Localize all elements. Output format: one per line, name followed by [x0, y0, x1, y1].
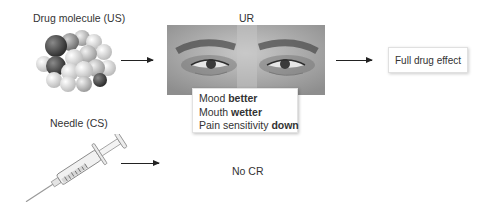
effect-pain-prefix: Pain sensitivity [199, 119, 271, 131]
face-eyes-image [167, 25, 325, 95]
no-cr-label: No CR [232, 165, 264, 177]
effect-mood-emphasis: better [228, 92, 257, 104]
syringe-icon [18, 134, 138, 202]
effect-mood-prefix: Mood [199, 92, 228, 104]
full-drug-effect-box: Full drug effect [388, 47, 468, 73]
effect-mouth-emphasis: wetter [231, 106, 262, 118]
ur-label: UR [239, 12, 254, 24]
effect-mood: Mood better [199, 92, 297, 106]
cs-label: Needle (CS) [50, 117, 108, 129]
us-label: Drug molecule (US) [33, 12, 125, 24]
effect-pain-emphasis: down [271, 119, 298, 131]
arrow-ur-to-effect [336, 60, 372, 61]
effect-mouth: Mouth wetter [199, 106, 297, 120]
effect-pain: Pain sensitivity down [199, 119, 297, 133]
arrow-cs-to-no-cr [121, 163, 159, 164]
molecule-icon [30, 28, 120, 94]
ur-effects-box: Mood better Mouth wetter Pain sensitivit… [192, 88, 298, 133]
arrow-us-to-ur [121, 60, 153, 61]
effect-mouth-prefix: Mouth [199, 106, 231, 118]
